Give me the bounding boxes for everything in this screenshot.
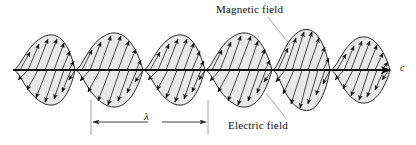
magnetic-field-label: Magnetic field: [216, 3, 283, 15]
electric-field-label: Electric field: [228, 119, 288, 131]
magnetic-field-leader: [268, 17, 290, 45]
em-wave-canvas: [0, 0, 416, 145]
speed-of-light-label: c: [400, 62, 405, 73]
wavelength-symbol-label: λ: [144, 110, 149, 122]
electric-field-leader: [266, 93, 285, 117]
em-wave-diagram: Magnetic field Electric field c λ: [0, 0, 416, 145]
